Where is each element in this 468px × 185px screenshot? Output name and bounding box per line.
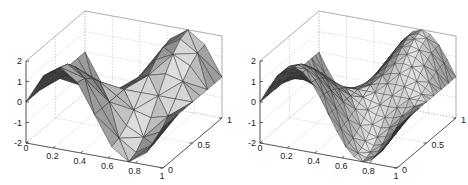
z-tick-label: 1 [17,77,22,87]
x-tick-label: 0.6 [335,161,348,171]
z-tick-label: -1 [248,118,256,128]
x-tick-label: 0 [23,143,28,153]
y-tick-label: 0 [402,165,407,175]
x-tick-label: 0.2 [280,151,293,161]
x-tick-label: 0.4 [308,156,321,166]
x-tick-label: 0.2 [46,151,59,161]
x-tick-label: 0 [257,143,262,153]
x-tick-label: 1 [393,171,398,181]
figure: 210-1-200.20.40.60.8100.51 210-1-200.20.… [0,0,468,185]
figure-canvas: 210-1-200.20.40.60.8100.51 210-1-200.20.… [0,0,468,185]
z-tick-label: -1 [14,118,22,128]
x-tick-label: 1 [159,171,164,181]
x-tick-label: 0.8 [362,166,375,176]
y-tick-label: 0.5 [198,140,211,150]
y-tick-label: 1 [461,115,466,125]
z-tick-label: 1 [251,77,256,87]
x-tick-label: 0.4 [74,156,87,166]
surface-plot-fine: 210-1-200.20.40.60.8100.51 [248,11,466,181]
z-tick-label: -2 [14,138,22,148]
y-tick-label: 1 [227,115,232,125]
surface-plot-coarse: 210-1-200.20.40.60.8100.51 [14,11,232,181]
z-tick-label: 0 [251,97,256,107]
surface-facet [26,72,51,102]
x-tick-label: 0.6 [101,161,114,171]
z-tick-label: 0 [17,97,22,107]
z-tick-label: 2 [17,56,22,66]
x-tick-label: 0.8 [128,166,141,176]
z-tick-label: 2 [251,56,256,66]
y-tick-label: 0 [168,165,173,175]
z-tick-label: -2 [248,138,256,148]
y-tick-label: 0.5 [432,140,445,150]
